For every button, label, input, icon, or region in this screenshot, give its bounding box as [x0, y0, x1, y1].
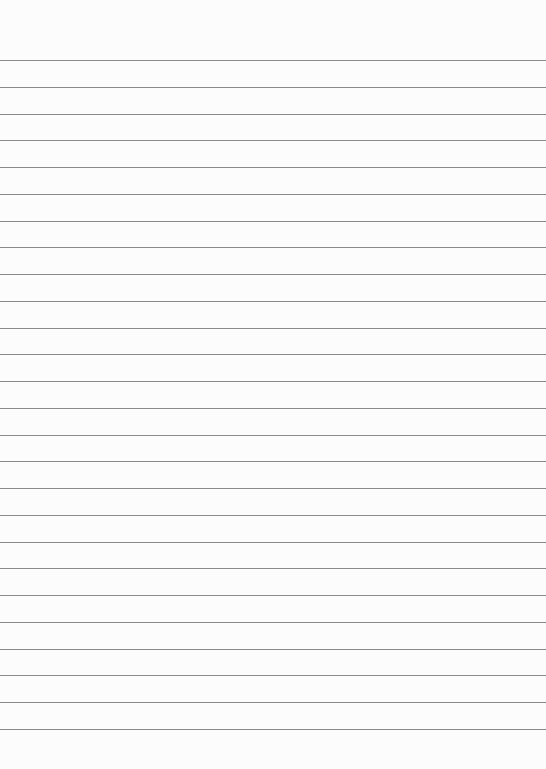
ruled-line: [0, 247, 546, 248]
ruled-line: [0, 542, 546, 543]
ruled-line: [0, 221, 546, 222]
ruled-line: [0, 328, 546, 329]
ruled-line: [0, 729, 546, 730]
ruled-line: [0, 622, 546, 623]
ruled-line: [0, 114, 546, 115]
ruled-line: [0, 60, 546, 61]
lined-paper-sheet: [0, 0, 546, 769]
ruled-line: [0, 274, 546, 275]
ruled-line: [0, 488, 546, 489]
ruled-line: [0, 140, 546, 141]
ruled-line: [0, 381, 546, 382]
ruled-line: [0, 675, 546, 676]
ruled-line: [0, 568, 546, 569]
ruled-line: [0, 408, 546, 409]
ruled-line: [0, 702, 546, 703]
ruled-line: [0, 461, 546, 462]
ruled-line: [0, 167, 546, 168]
ruled-line: [0, 301, 546, 302]
ruled-line: [0, 435, 546, 436]
ruled-line: [0, 87, 546, 88]
ruled-line: [0, 649, 546, 650]
ruled-line: [0, 595, 546, 596]
ruled-line: [0, 515, 546, 516]
ruled-line: [0, 354, 546, 355]
ruled-line: [0, 194, 546, 195]
